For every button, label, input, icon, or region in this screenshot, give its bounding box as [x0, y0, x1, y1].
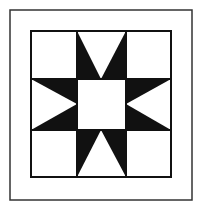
block-border — [31, 31, 171, 177]
block-grid — [31, 31, 171, 177]
star-points — [31, 31, 171, 177]
star-point-top-right — [101, 31, 126, 79]
star-point-right-top — [126, 79, 171, 104]
star-point-right-bottom — [126, 104, 171, 130]
outer-frame — [10, 10, 192, 200]
star-point-top-left — [77, 31, 101, 79]
star-point-left-top — [31, 79, 77, 104]
star-point-left-bottom — [31, 104, 77, 130]
star-point-bottom-right — [101, 130, 126, 177]
star-point-bottom-left — [77, 130, 101, 177]
quilt-block-diagram — [0, 0, 204, 207]
